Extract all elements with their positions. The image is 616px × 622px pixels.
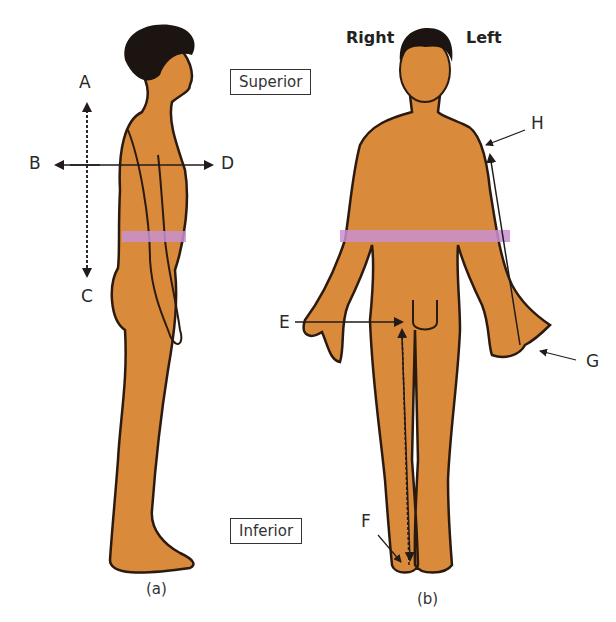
label-d: D	[221, 155, 234, 172]
label-a: A	[79, 74, 91, 91]
label-b: B	[29, 155, 41, 172]
label-h: H	[531, 115, 544, 132]
label-left: Left	[466, 30, 502, 46]
lateral-figure	[110, 25, 195, 573]
label-c: C	[81, 288, 93, 305]
label-right: Right	[346, 30, 394, 46]
inferior-box: Inferior	[230, 518, 302, 544]
superior-box: Superior	[230, 69, 311, 95]
caption-a: (a)	[146, 580, 167, 598]
label-f: F	[361, 513, 371, 530]
label-g: G	[586, 353, 599, 370]
label-e: E	[279, 314, 290, 331]
caption-b: (b)	[417, 590, 438, 608]
